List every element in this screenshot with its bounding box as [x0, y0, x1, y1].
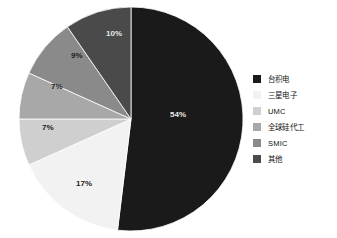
pie-svg: 54%17%7%7%9%10% [18, 6, 244, 232]
pie-slice-value-label: 9% [71, 51, 83, 60]
pie-chart-figure: 54%17%7%7%9%10% 台积电三星电子UMC全球硅代工SMIC其他 [0, 0, 337, 238]
pie-slice-value-label: 10% [106, 29, 122, 38]
legend-item[interactable]: 其他 [253, 151, 335, 167]
pie-slice-value-label: 54% [170, 110, 186, 119]
pie-slice-value-label: 7% [42, 123, 54, 132]
legend-item-label: 其他 [268, 155, 282, 164]
legend-color-swatch-icon [253, 107, 261, 115]
legend-item-label: SMIC [268, 139, 288, 148]
pie-slice-value-label: 17% [76, 179, 92, 188]
legend-item-label: 台积电 [268, 75, 290, 84]
legend-item[interactable]: 三星电子 [253, 87, 335, 103]
legend-color-swatch-icon [253, 155, 261, 163]
legend-item-label: UMC [268, 107, 286, 116]
pie-chart-plot-area: 54%17%7%7%9%10% [18, 6, 244, 232]
legend-item-label: 三星电子 [268, 91, 297, 100]
chart-legend: 台积电三星电子UMC全球硅代工SMIC其他 [253, 71, 335, 167]
legend-color-swatch-icon [253, 139, 261, 147]
legend-color-swatch-icon [253, 123, 261, 131]
legend-item[interactable]: 台积电 [253, 71, 335, 87]
legend-item[interactable]: UMC [253, 103, 335, 119]
legend-item[interactable]: SMIC [253, 135, 335, 151]
legend-color-swatch-icon [253, 75, 261, 83]
pie-slice-group [19, 7, 243, 231]
legend-color-swatch-icon [253, 91, 261, 99]
legend-item-label: 全球硅代工 [268, 123, 304, 132]
pie-slice-value-label: 7% [51, 82, 63, 91]
legend-item[interactable]: 全球硅代工 [253, 119, 335, 135]
